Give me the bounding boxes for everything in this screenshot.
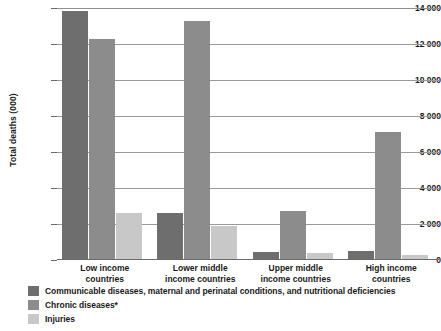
x-axis-category-label-line: Low income (57, 263, 153, 274)
legend-swatch-icon (28, 300, 39, 310)
x-axis-category-label-line: countries (344, 274, 440, 285)
x-axis-baseline (57, 259, 439, 260)
x-axis-category-label-line: Upper middle (248, 263, 344, 274)
plot-area (57, 8, 439, 260)
legend-item[interactable]: Injuries (28, 312, 395, 325)
bar-chart: Total deaths (000) 02 0004 0006 0008 000… (0, 0, 441, 331)
legend-item[interactable]: Communicable diseases, maternal and peri… (28, 284, 395, 297)
chart-legend: Communicable diseases, maternal and peri… (28, 284, 395, 326)
bar (157, 213, 183, 260)
y-axis-tick-mark (51, 260, 57, 261)
bar (375, 132, 401, 260)
legend-swatch-icon (28, 314, 39, 324)
x-axis-category-label: Upper middleincome countries (248, 263, 344, 284)
bar (89, 39, 115, 260)
bar (211, 226, 237, 260)
legend-item-label: Communicable diseases, maternal and peri… (45, 286, 395, 296)
x-axis-category-label: Low incomecountries (57, 263, 153, 284)
x-axis-category-label: High incomecountries (344, 263, 440, 284)
x-axis-category-label-line: income countries (248, 274, 344, 285)
plot-top-border (57, 8, 439, 9)
x-axis-category-label-line: Lower middle (153, 263, 249, 274)
x-axis-category-label-line: countries (57, 274, 153, 285)
bar (116, 213, 142, 260)
bar (184, 21, 210, 260)
legend-item-label: Injuries (45, 314, 75, 324)
x-axis-category-label: Lower middleincome countries (153, 263, 249, 284)
legend-item[interactable]: Chronic diseases* (28, 298, 395, 311)
y-axis-title: Total deaths (000) (8, 70, 18, 190)
bar (62, 11, 88, 260)
bar (280, 211, 306, 260)
legend-swatch-icon (28, 286, 39, 296)
x-axis-category-label-line: income countries (153, 274, 249, 285)
x-axis-category-label-line: High income (344, 263, 440, 274)
legend-item-label: Chronic diseases* (45, 300, 118, 310)
